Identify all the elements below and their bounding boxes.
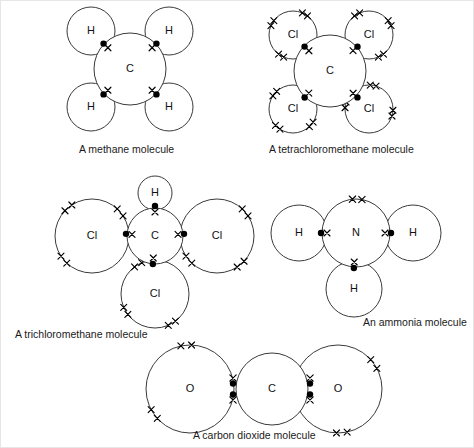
bond-electron-dot — [123, 231, 129, 237]
atom-label-cl: Cl — [364, 28, 374, 40]
caption-ammonia: An ammonia molecule — [363, 316, 467, 328]
atom-label-cl: Cl — [150, 287, 160, 299]
bond-electron-dot — [307, 380, 313, 386]
diagram-canvas: HHHHCA methane moleculeClClClClCA tetrac… — [1, 1, 473, 447]
bond-electron-dot — [318, 230, 324, 236]
caption-carbon-dioxide: A carbon dioxide molecule — [193, 429, 316, 441]
central-atom-n: N — [322, 196, 390, 267]
molecules-group: HHHHCA methane moleculeClClClClCA tetrac… — [15, 7, 467, 441]
atom-label-cl: Cl — [87, 229, 97, 241]
bond-electron-dot — [351, 265, 357, 271]
atom-label-central: C — [326, 64, 334, 76]
atom-label-central: C — [268, 382, 276, 394]
atom-label-h: H — [350, 282, 358, 294]
outer-atom-cl-3: Cl — [121, 260, 189, 329]
atom-label-cl: Cl — [364, 102, 374, 114]
atom-label-central: N — [352, 226, 360, 238]
atom-label-h: H — [87, 100, 95, 112]
outer-atom-cl-1: Cl — [55, 199, 129, 273]
outer-atom-cl-2: Cl — [180, 199, 254, 273]
atom-label-central: C — [126, 62, 134, 74]
molecule-trichloromethane: HClClClC — [55, 176, 254, 328]
caption-trichloromethane: A trichloromethane molecule — [15, 328, 148, 340]
caption-tetrachloromethane: A tetrachloromethane molecule — [269, 143, 414, 155]
atom-label-cl: Cl — [288, 102, 298, 114]
bond-electron-dot — [230, 391, 236, 397]
outer-atom-o-0: O — [146, 342, 234, 433]
atom-label-h: H — [165, 100, 173, 112]
atom-label-o: O — [334, 382, 343, 394]
bond-electron-dot — [150, 261, 156, 267]
bond-electron-dot — [152, 203, 158, 209]
atom-label-h: H — [87, 24, 95, 36]
molecule-methane: HHHHC — [67, 7, 193, 131]
molecule-ammonia: HHHN — [271, 196, 441, 317]
atom-label-cl: Cl — [288, 28, 298, 40]
molecule-diagram-svg: HHHHCA methane moleculeClClClClCA tetrac… — [1, 1, 474, 448]
bond-electron-dot — [307, 391, 313, 397]
atom-label-central: C — [151, 229, 159, 241]
atom-label-h: H — [151, 186, 159, 198]
molecule-carbon-dioxide: OOC — [146, 342, 382, 436]
atom-label-h: H — [165, 24, 173, 36]
bond-electron-dot — [388, 230, 394, 236]
central-atom-c: C — [236, 353, 308, 425]
atom-label-cl: Cl — [212, 229, 222, 241]
bond-electron-dot — [181, 231, 187, 237]
atom-label-h: H — [295, 226, 303, 238]
atom-label-h: H — [409, 226, 417, 238]
molecule-tetrachloromethane: ClClClClC — [268, 10, 396, 133]
caption-methane: A methane molecule — [79, 143, 174, 155]
bond-electron-dot — [230, 380, 236, 386]
atom-label-o: O — [186, 382, 195, 394]
